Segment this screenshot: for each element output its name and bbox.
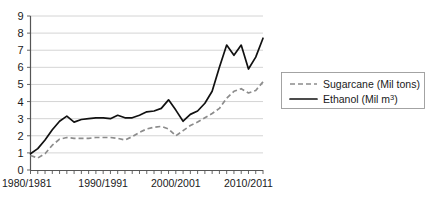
- chart-svg: 0123456789 1980/19811990/19912000/200120…: [0, 0, 431, 203]
- y-tick-label: 0: [17, 164, 23, 176]
- x-tick-label: 2000/2001: [151, 177, 201, 189]
- y-tick-label: 5: [17, 78, 23, 90]
- chart-figure: 0123456789 1980/19811990/19912000/200120…: [0, 0, 431, 203]
- y-tick-label: 9: [17, 10, 23, 22]
- y-tick-label: 8: [17, 27, 23, 39]
- x-tick-label: 1980/1981: [2, 177, 52, 189]
- y-tick-label: 3: [17, 113, 23, 125]
- legend-label-ethanol-prefix: Ethanol (Mil m: [323, 93, 390, 105]
- y-tick-labels-group: 0123456789: [17, 10, 23, 176]
- gridlines-group: [31, 16, 264, 153]
- y-tick-label: 4: [17, 96, 23, 108]
- y-tick-label: 1: [17, 147, 23, 159]
- y-tick-label: 2: [17, 130, 23, 142]
- x-tick-label: 2010/2011: [224, 177, 273, 189]
- legend-label-ethanol-suffix: ): [394, 93, 398, 105]
- series-line-sugarcane: [31, 82, 264, 158]
- y-tick-label: 7: [17, 44, 23, 56]
- x-tick-label: 1990/1991: [78, 177, 128, 189]
- x-tick-labels-group: 1980/19811990/19912000/20012010/2011: [2, 177, 273, 189]
- legend-label-ethanol: Ethanol (Mil m3): [323, 93, 398, 106]
- legend-label-sugarcane: Sugarcane (Mil tons): [323, 78, 420, 90]
- y-tick-label: 6: [17, 61, 23, 73]
